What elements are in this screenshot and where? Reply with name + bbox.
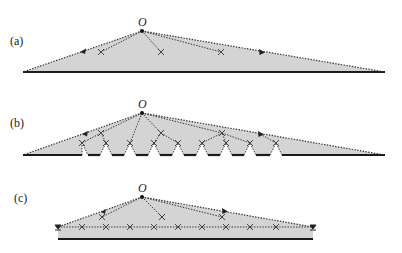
panel-b: (b) O: [10, 97, 385, 155]
shaded-region-a: [23, 31, 385, 72]
shaded-region-b: [23, 113, 385, 155]
shaded-region-c: [58, 197, 313, 239]
panel-b-label: (b): [10, 116, 24, 130]
origin-point-b: [140, 111, 144, 115]
origin-point-c: [140, 195, 144, 199]
origin-point-a: [140, 29, 144, 33]
diagram-figure: (a) O (b) O: [0, 0, 402, 253]
origin-label-a: O: [138, 15, 147, 29]
origin-label-c: O: [138, 181, 147, 195]
panel-c: (c) O: [14, 181, 316, 239]
origin-label-b: O: [138, 97, 147, 111]
panel-a: (a) O: [10, 15, 385, 72]
panel-c-label: (c): [14, 191, 27, 205]
panel-a-label: (a): [10, 34, 23, 48]
